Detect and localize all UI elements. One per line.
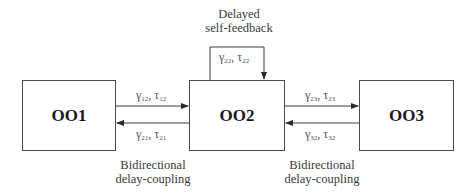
node-oo3: OO3 (359, 80, 454, 151)
node-oo2: OO2 (189, 80, 285, 151)
self-feedback-title: Delayed self-feedback (196, 7, 282, 35)
coupling-label-right: Bidirectional delay-coupling (275, 158, 369, 186)
link-param-23: γ23, τ23 (305, 88, 335, 103)
link-param-21: γ21, τ21 (136, 127, 166, 142)
node-oo1: OO1 (22, 80, 116, 151)
self-feedback-params: γ22, τ22 (219, 50, 249, 65)
link-param-12: γ12, τ12 (136, 88, 166, 103)
link-param-32: γ32, τ32 (305, 127, 335, 142)
coupling-label-left: Bidirectional delay-coupling (106, 158, 200, 186)
